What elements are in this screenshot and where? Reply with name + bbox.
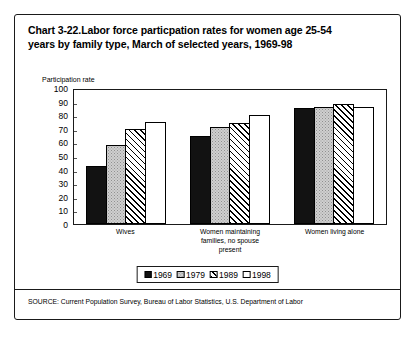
y-axis-tick-mark (74, 144, 77, 145)
y-axis-tick-label: 0 (63, 221, 68, 230)
legend-swatch-1989 (210, 271, 218, 279)
y-axis-tick-label: 70 (59, 126, 68, 135)
y-axis-tick-mark (74, 117, 77, 118)
y-axis-tick-label: 60 (59, 139, 68, 148)
y-axis-tick-mark (74, 172, 77, 173)
legend-label: 1979 (186, 270, 205, 280)
y-axis-tick-label: 10 (59, 207, 68, 216)
legend-swatch-1969 (144, 271, 152, 279)
bar-group (294, 90, 375, 224)
category-label-line: Women living alone (305, 228, 364, 235)
bar-1969-2[interactable] (190, 136, 211, 224)
y-axis-tick-mark (74, 131, 77, 132)
chart-legend: 1969197919891998 (136, 266, 279, 283)
plot-area (73, 89, 387, 225)
bar-group (190, 90, 271, 224)
y-axis-tick-label: 20 (59, 194, 68, 203)
y-axis-tick-label: 50 (59, 153, 68, 162)
legend-swatch-1998 (243, 271, 251, 279)
plot-wrapper: 1009080706050403020100 (42, 89, 387, 237)
legend-swatch-1979 (177, 271, 185, 279)
y-axis-tick-label: 40 (59, 167, 68, 176)
category-label: Wives (74, 227, 178, 254)
y-axis-tick-mark (74, 158, 77, 159)
y-axis-tick-mark (74, 212, 77, 213)
bar-1989-3[interactable] (333, 104, 354, 224)
bar-1979-3[interactable] (314, 107, 335, 224)
y-axis-label: Participation rate (42, 76, 95, 83)
bar-1969-1[interactable] (86, 166, 107, 224)
category-label: Women maintainingfamilies, no spousepres… (178, 227, 282, 254)
chart-frame: Chart 3-22.Labor force particpation rate… (14, 14, 401, 320)
legend-item-1998[interactable]: 1998 (243, 270, 271, 280)
legend-label: 1998 (252, 270, 271, 280)
bar-group (86, 90, 167, 224)
category-label: Women living alone (283, 227, 387, 254)
chart-title: Chart 3-22.Labor force particpation rate… (28, 24, 383, 51)
y-axis-tick-label: 90 (59, 99, 68, 108)
legend-label: 1969 (153, 270, 172, 280)
bar-1979-2[interactable] (210, 127, 231, 224)
y-axis-tick-label: 100 (54, 85, 68, 94)
chart-title-line-1: Chart 3-22.Labor force particpation rate… (28, 24, 332, 36)
source-divider (15, 289, 400, 290)
source-note: SOURCE: Current Population Survey, Burea… (28, 298, 303, 305)
bar-1969-3[interactable] (294, 108, 315, 224)
legend-item-1979[interactable]: 1979 (177, 270, 205, 280)
bar-1998-2[interactable] (249, 115, 270, 224)
bars-layer (74, 90, 386, 224)
y-axis-tick-label: 30 (59, 180, 68, 189)
bar-1979-1[interactable] (106, 145, 127, 224)
chart-title-line-2: years by family type, March of selected … (28, 38, 292, 50)
legend-label: 1989 (219, 270, 238, 280)
bar-1998-3[interactable] (353, 107, 374, 224)
category-label-line: Wives (116, 228, 135, 235)
category-labels: WivesWomen maintainingfamilies, no spous… (73, 227, 387, 254)
y-axis-tick-mark (74, 199, 77, 200)
bar-1998-1[interactable] (145, 122, 166, 224)
y-axis-tick-mark (74, 185, 77, 186)
category-label-line: Women maintaining (200, 228, 260, 235)
y-axis: 1009080706050403020100 (42, 89, 72, 225)
legend-item-1989[interactable]: 1989 (210, 270, 238, 280)
category-label-line: present (219, 246, 242, 253)
y-axis-tick-mark (74, 104, 77, 105)
bar-1989-1[interactable] (125, 129, 146, 224)
y-axis-tick-label: 80 (59, 112, 68, 121)
category-label-line: families, no spouse (201, 237, 259, 244)
bar-1989-2[interactable] (229, 123, 250, 224)
legend-item-1969[interactable]: 1969 (144, 270, 172, 280)
